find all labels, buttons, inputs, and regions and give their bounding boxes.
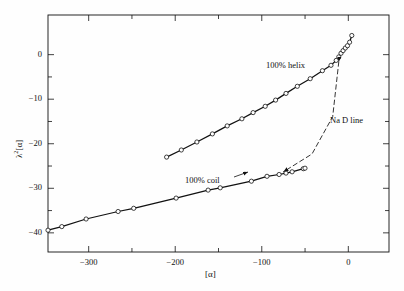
data-point bbox=[277, 172, 281, 176]
data-point bbox=[116, 209, 120, 213]
data-point bbox=[263, 104, 267, 108]
plot-canvas bbox=[0, 0, 404, 291]
data-point bbox=[249, 179, 253, 183]
data-point bbox=[225, 124, 229, 128]
data-point bbox=[274, 98, 278, 102]
data-point bbox=[350, 33, 354, 37]
data-point bbox=[303, 166, 307, 170]
y-tick-label: −10 bbox=[8, 93, 42, 103]
x-axis-title: [α] bbox=[205, 269, 216, 279]
coil-label: 100% coil bbox=[185, 175, 220, 185]
data-point bbox=[284, 91, 288, 95]
data-point bbox=[308, 77, 312, 81]
data-point bbox=[290, 170, 294, 174]
y-axis-title-bracket: [α] bbox=[14, 140, 24, 151]
data-point bbox=[320, 69, 324, 73]
coil-leader bbox=[234, 172, 248, 177]
x-tick-label: −300 bbox=[67, 257, 111, 267]
data-point bbox=[210, 132, 214, 136]
data-point bbox=[240, 117, 244, 121]
y-tick-label: −40 bbox=[8, 227, 42, 237]
x-tick-label: −100 bbox=[240, 257, 284, 267]
y-axis-title-exponent: 2 bbox=[13, 151, 19, 154]
data-point bbox=[179, 148, 183, 152]
series-coil bbox=[46, 166, 307, 232]
data-point bbox=[206, 188, 210, 192]
data-point bbox=[329, 63, 333, 67]
chart-figure: −300−200−1000 0−10−20−30−40 100% helix10… bbox=[0, 0, 404, 291]
data-point bbox=[284, 171, 288, 175]
data-point bbox=[295, 84, 299, 88]
data-point bbox=[265, 174, 269, 178]
y-axis-title-lambda: λ bbox=[14, 154, 24, 158]
annotation-leaders bbox=[234, 172, 248, 177]
data-point bbox=[60, 225, 64, 229]
y-tick-label: −30 bbox=[8, 182, 42, 192]
y-tick-label: 0 bbox=[8, 49, 42, 59]
x-tick-label: 0 bbox=[326, 257, 370, 267]
data-point bbox=[165, 155, 169, 159]
data-point bbox=[218, 186, 222, 190]
y-axis-title: λ2[α] bbox=[14, 140, 24, 158]
data-point bbox=[84, 217, 88, 221]
data-point bbox=[348, 40, 352, 44]
x-tick-label: −200 bbox=[153, 257, 197, 267]
data-point bbox=[132, 206, 136, 210]
helix-label: 100% helix bbox=[0, 60, 305, 70]
data-point bbox=[174, 196, 178, 200]
data-point bbox=[251, 111, 255, 115]
data-point bbox=[46, 228, 50, 232]
data-point bbox=[195, 140, 199, 144]
na-d-line-label: Na D line bbox=[330, 115, 363, 125]
series-helix bbox=[165, 33, 354, 159]
